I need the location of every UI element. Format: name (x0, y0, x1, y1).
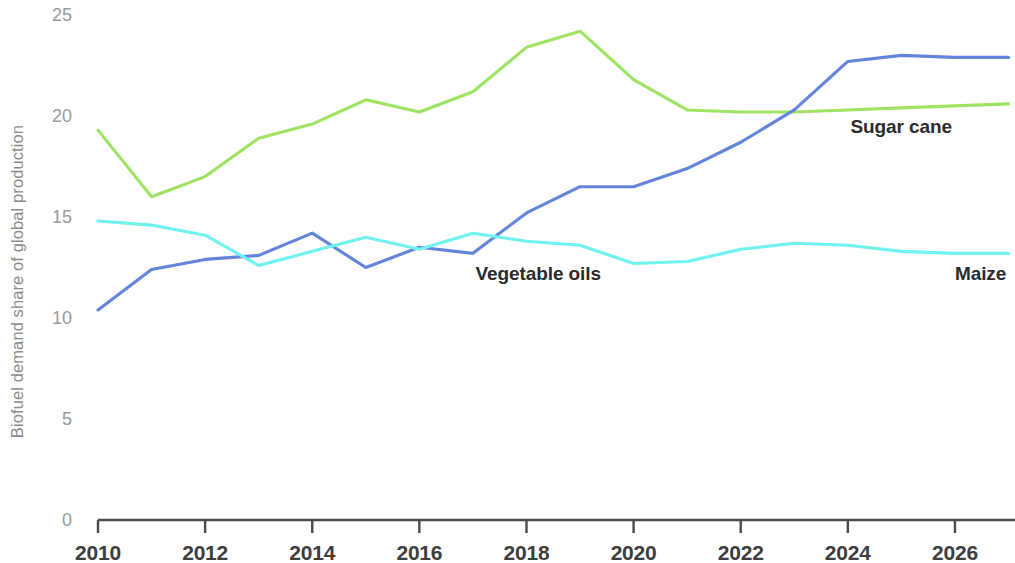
x-axis-tick-label: 2018 (504, 542, 550, 563)
x-axis-tick-label: 2010 (75, 542, 121, 563)
x-axis-tick-label: 2016 (396, 542, 442, 563)
series-label-maize: Maize (955, 264, 1006, 283)
x-axis-tick-label: 2026 (932, 542, 978, 563)
x-axis-tick-label: 2022 (718, 542, 764, 563)
x-axis-tick-label: 2024 (825, 542, 871, 563)
series-line-maize (98, 221, 1009, 265)
x-axis-tick-label: 2020 (611, 542, 657, 563)
biofuel-demand-share-line-chart: Biofuel demand share of global productio… (0, 0, 1015, 563)
x-axis-tick-label: 2014 (289, 542, 335, 563)
series-line-sugar-cane (98, 31, 1009, 197)
series-label-sugar-cane: Sugar cane (851, 117, 952, 136)
x-axis-tick-label: 2012 (182, 542, 228, 563)
series-label-vegetable-oils: Vegetable oils (476, 264, 601, 283)
